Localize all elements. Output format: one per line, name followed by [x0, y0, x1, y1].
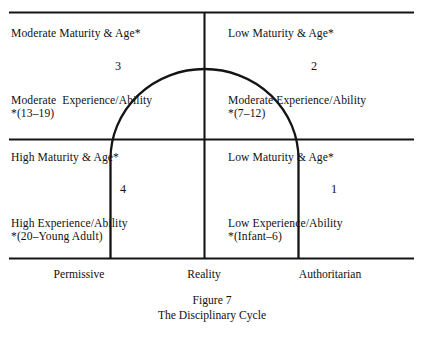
quadrant-3-number: 3	[105, 60, 131, 73]
quadrant-2-number: 2	[301, 60, 327, 73]
quadrant-3-experience-label: Moderate Experience/Ability*(13–19)	[11, 94, 152, 121]
quadrant-3-maturity-label: Moderate Maturity & Age*	[11, 27, 141, 40]
quadrant-4-maturity-label: High Maturity & Age*	[11, 151, 119, 164]
quadrant-2-age-range: *(7–12)	[228, 107, 265, 120]
quadrant-2-experience-line: Moderate Experience/Ability	[228, 94, 366, 107]
quadrant-4-number: 4	[110, 183, 136, 196]
quadrant-1-experience-label: Low Experience/Ability*(Infant–6)	[228, 217, 343, 244]
quadrant-2-experience-label: Moderate Experience/Ability*(7–12)	[228, 94, 366, 121]
quadrant-4-experience-label: High Experience/Ability*(20–Young Adult)	[11, 217, 128, 244]
quadrant-2-maturity-label: Low Maturity & Age*	[228, 27, 334, 40]
disciplinary-cycle-figure: Moderate Maturity & Age* 3 Moderate Expe…	[0, 0, 424, 340]
quadrant-1-age-range: *(Infant–6)	[228, 230, 282, 243]
quadrant-1-number: 1	[321, 183, 347, 196]
quadrant-4-experience-line: High Experience/Ability	[11, 217, 128, 230]
figure-caption-subtitle: The Disciplinary Cycle	[0, 308, 424, 323]
quadrant-3-age-range: *(13–19)	[11, 107, 54, 120]
quadrant-1-experience-line: Low Experience/Ability	[228, 217, 343, 230]
figure-line-art	[0, 0, 424, 340]
axis-label-reality: Reality	[152, 268, 256, 282]
figure-caption-title: Figure 7	[0, 293, 424, 308]
figure-caption: Figure 7 The Disciplinary Cycle	[0, 293, 424, 323]
axis-label-permissive: Permissive	[14, 268, 144, 282]
quadrant-3-experience-line: Moderate Experience/Ability	[11, 94, 152, 107]
axis-label-authoritarian: Authoritarian	[260, 268, 400, 282]
quadrant-4-age-range: *(20–Young Adult)	[11, 230, 103, 243]
quadrant-1-maturity-label: Low Maturity & Age*	[228, 151, 334, 164]
